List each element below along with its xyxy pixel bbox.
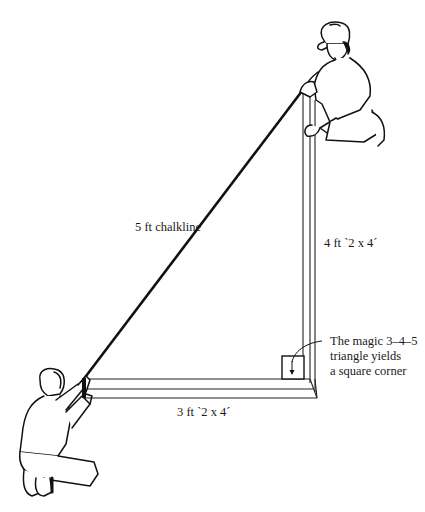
vertical-board [303, 92, 315, 392]
diagram-svg [0, 0, 425, 512]
callout-line-3: a square corner [330, 364, 417, 379]
worker-bottom-left-figure [20, 368, 98, 496]
chalkline-label: 5 ft chalkline [135, 220, 201, 235]
callout-line-1: The magic 3–4–5 [330, 334, 417, 349]
worker-top-right-figure [300, 22, 384, 146]
horizontal-board-label: 3 ft `2 x 4´ [177, 405, 230, 420]
chalkline [80, 91, 302, 384]
diagram-canvas: 5 ft chalkline 4 ft `2 x 4´ 3 ft `2 x 4´… [0, 0, 425, 512]
vertical-board-label: 4 ft `2 x 4´ [324, 236, 377, 251]
callout-note: The magic 3–4–5 triangle yields a square… [330, 334, 417, 379]
horizontal-board [85, 379, 317, 398]
callout-line-2: triangle yields [330, 349, 417, 364]
